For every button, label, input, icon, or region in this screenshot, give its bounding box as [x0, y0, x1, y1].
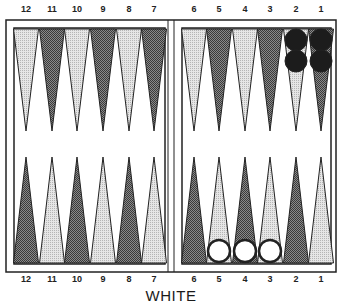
bottom-number-12: 12	[16, 274, 36, 284]
home-board-field	[182, 28, 331, 264]
bottom-point-numbers: 12 11 10 9 8 7 6 5 4 3 2 1	[0, 274, 342, 288]
bottom-number-2: 2	[286, 274, 306, 284]
bottom-number-9: 9	[93, 274, 113, 284]
white-checker[interactable]	[234, 240, 256, 262]
bottom-number-1: 1	[311, 274, 331, 284]
backgammon-board	[0, 0, 342, 306]
player-side-label: WHITE	[0, 287, 342, 304]
bottom-number-8: 8	[119, 274, 139, 284]
bottom-number-6: 6	[184, 274, 204, 284]
bottom-number-5: 5	[209, 274, 229, 284]
bottom-number-3: 3	[260, 274, 280, 284]
bottom-number-4: 4	[235, 274, 255, 284]
black-checker[interactable]	[310, 29, 332, 51]
black-checker[interactable]	[310, 50, 332, 72]
bottom-number-11: 11	[42, 274, 62, 284]
bottom-number-10: 10	[67, 274, 87, 284]
white-checker[interactable]	[208, 240, 230, 262]
white-checker[interactable]	[259, 240, 281, 262]
black-checker[interactable]	[285, 29, 307, 51]
outer-board-field	[14, 28, 165, 264]
bottom-number-7: 7	[144, 274, 164, 284]
black-checker[interactable]	[285, 50, 307, 72]
